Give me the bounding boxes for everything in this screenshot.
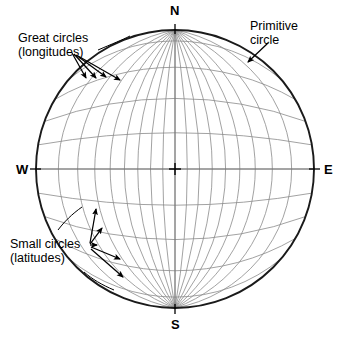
callout-primitive-circle: Primitive circle: [250, 20, 298, 47]
cardinal-label-north: N: [170, 4, 179, 17]
callout-great-circles: Great circles (longitudes): [18, 32, 88, 59]
callout-primitive-circle-line2: circle: [250, 34, 298, 48]
small-circles-leader-1: [58, 207, 82, 230]
callout-small-circles: Small circles (latitudes): [10, 238, 80, 265]
cardinal-label-east: E: [324, 163, 333, 176]
callout-great-circles-line2: (longitudes): [18, 46, 88, 60]
callout-primitive-circle-line1: Primitive: [250, 20, 298, 34]
center-cross-marker: [169, 163, 181, 175]
callout-great-circles-line1: Great circles: [18, 32, 88, 46]
great-circles-leader: [98, 36, 130, 50]
callout-small-circles-line1: Small circles: [10, 238, 80, 252]
cardinal-label-west: W: [16, 163, 28, 176]
small-circles-leader-2: [84, 272, 114, 290]
small-circles-arrow-group: [90, 209, 123, 277]
cardinal-label-south: S: [171, 318, 180, 331]
callout-small-circles-line2: (latitudes): [10, 252, 80, 266]
stereonet-figure: N S W E Great circles (longitudes) Small…: [0, 0, 344, 340]
